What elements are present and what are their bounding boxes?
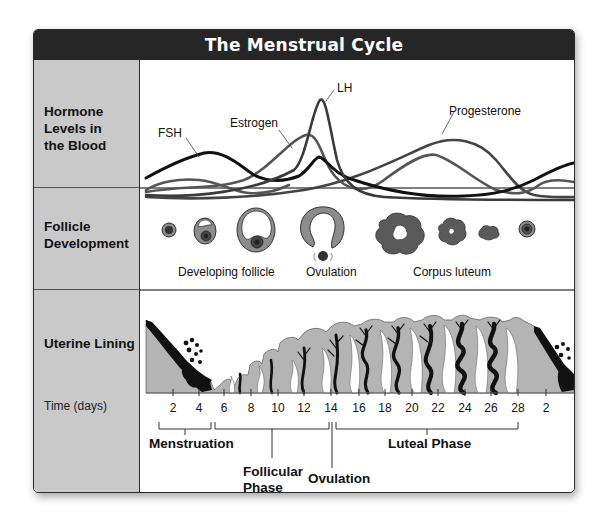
day-label: 2 [543,401,550,415]
menstruation-phase-label: Menstruation [149,436,234,451]
developing-follicle-caption: Developing follicle [178,265,275,279]
day-label: 18 [378,401,392,415]
day-label: 24 [458,401,472,415]
day-label: 22 [431,401,445,415]
corpus-luteum-caption: Corpus luteum [413,265,491,279]
progesterone-label: Progesterone [449,104,521,118]
day-label: 26 [484,401,498,415]
ovulation-phase-label: Ovulation [308,471,370,486]
day-label: 14 [324,401,338,415]
uterine-lining-illustration [146,315,574,396]
follicular-phase-label-line-2: Phase [243,480,283,492]
follicle-illustrations [162,207,535,261]
phase-labels: Menstruation Follicular Phase Ovulation … [149,436,472,492]
day-label: 28 [511,401,525,415]
day-label: 6 [221,401,228,415]
hormone-labels: FSH Estrogen LH Progesterone [158,81,521,140]
corpus-luteum-large-icon [376,213,425,254]
primary-follicle-icon [194,218,216,244]
estrogen-label: Estrogen [230,116,278,130]
estrogen-curve [146,135,574,194]
new-primordial-follicle-icon [519,221,535,237]
corpus-luteum-medium-icon [439,218,466,245]
menstrual-cycle-diagram: The Menstrual Cycle Hormone Levels in th… [33,29,575,493]
diagram-canvas: FSH Estrogen LH Progesterone [34,30,574,492]
ovulation-follicle-icon [300,207,344,261]
day-label: 16 [352,401,366,415]
day-label: 2 [170,401,177,415]
day-label: 8 [248,401,255,415]
fsh-label: FSH [158,126,182,140]
primordial-follicle-icon [162,223,176,237]
day-label: 10 [271,401,285,415]
graafian-follicle-icon [237,208,275,252]
corpus-albicans-icon [479,226,499,240]
lh-label: LH [337,81,352,95]
day-label: 12 [297,401,311,415]
day-label: 4 [196,401,203,415]
ovulation-caption: Ovulation [306,265,357,279]
day-label: 20 [405,401,419,415]
luteal-phase-label: Luteal Phase [388,436,472,451]
day-axis-labels: 2 4 6 8 10 12 14 16 18 20 22 24 26 28 2 [170,401,550,415]
follicular-phase-label-line-1: Follicular [243,464,304,479]
